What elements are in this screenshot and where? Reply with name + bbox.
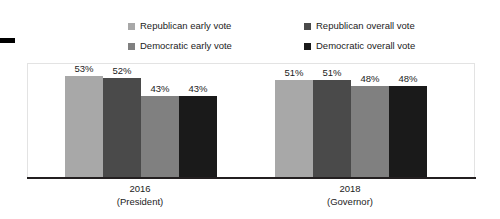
bar (103, 78, 141, 178)
bar-group-2016: 53% 52% 43% 43% (65, 63, 217, 178)
bar-slot: 43% (141, 63, 179, 178)
bar (275, 80, 313, 178)
legend-label: Democratic overall vote (316, 41, 415, 51)
legend-swatch-icon (304, 23, 311, 30)
bar-chart: Republican early vote Republican overall… (0, 0, 500, 219)
legend-label: Republican early vote (140, 21, 231, 31)
bar (141, 96, 179, 178)
legend-label: Democratic early vote (140, 41, 232, 51)
bar-value-label: 52% (103, 66, 141, 76)
bar (179, 96, 217, 178)
legend-item-democratic-early-vote: Democratic early vote (128, 41, 280, 51)
bar-slot: 52% (103, 63, 141, 178)
category-office: (President) (65, 195, 215, 208)
bar-slot: 51% (313, 63, 351, 178)
bar-value-label: 48% (389, 74, 427, 84)
bar-slot: 51% (275, 63, 313, 178)
legend-item-democratic-overall-vote: Democratic overall vote (304, 41, 456, 51)
category-label-2016: 2016 (President) (65, 182, 215, 208)
legend-swatch-icon (304, 43, 311, 50)
chart-legend: Republican early vote Republican overall… (128, 16, 458, 56)
bar-group-2018: 51% 51% 48% 48% (275, 63, 427, 178)
category-label-2018: 2018 (Governor) (275, 182, 425, 208)
bar (313, 80, 351, 178)
bar-value-label: 43% (179, 84, 217, 94)
bar-value-label: 51% (275, 68, 313, 78)
legend-label: Republican overall vote (316, 21, 415, 31)
legend-item-republican-early-vote: Republican early vote (128, 21, 280, 31)
category-year: 2018 (339, 183, 360, 194)
bar-value-label: 48% (351, 74, 389, 84)
bar-value-label: 51% (313, 68, 351, 78)
bar-value-label: 43% (141, 84, 179, 94)
legend-item-republican-overall-vote: Republican overall vote (304, 21, 456, 31)
category-year: 2016 (129, 183, 150, 194)
category-office: (Governor) (275, 195, 425, 208)
bar (389, 86, 427, 178)
x-axis-baseline (27, 177, 476, 179)
bar (65, 76, 103, 178)
bar (351, 86, 389, 178)
bar-slot: 48% (389, 63, 427, 178)
bar-value-label: 53% (65, 64, 103, 74)
plot-area: 53% 52% 43% 43% 51% 51% (27, 63, 475, 178)
bar-slot: 43% (179, 63, 217, 178)
bar-slot: 53% (65, 63, 103, 178)
legend-swatch-icon (128, 23, 135, 30)
legend-swatch-icon (128, 43, 135, 50)
left-edge-dash-mark (0, 38, 15, 43)
bar-slot: 48% (351, 63, 389, 178)
